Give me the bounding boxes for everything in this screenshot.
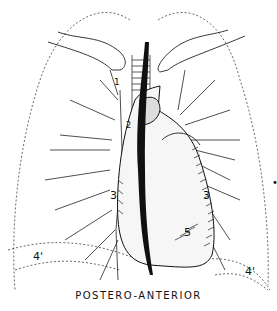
left-bronchial-tree: [45, 70, 122, 280]
anatomical-diagram: 1 2 3 3 5 4' 4' • POSTERO-ANTERIOR: [0, 0, 277, 311]
dot-marker: •: [272, 178, 277, 188]
heart: [118, 86, 215, 267]
label-3-right: 3: [203, 190, 210, 201]
label-1: 1: [114, 78, 120, 87]
label-3-left: 3: [110, 190, 117, 201]
lung-heart-illustration: [0, 0, 277, 311]
label-4-left: 4': [33, 251, 43, 262]
label-4-right: 4': [245, 266, 255, 277]
view-caption: POSTERO-ANTERIOR: [0, 290, 277, 301]
label-2: 2: [126, 122, 131, 130]
label-5: 5: [184, 227, 191, 238]
